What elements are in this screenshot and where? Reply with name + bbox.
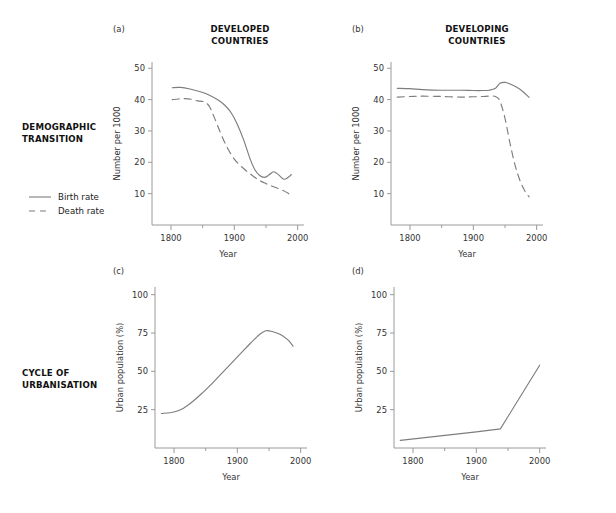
series-line-b-1 [397,96,529,197]
y-ticklabel-c-1: 50 [137,366,148,376]
x-axis-title-d: Year [460,472,479,482]
y-ticklabel-a-1: 20 [134,157,145,167]
panel-tag-a: (a) [113,24,125,34]
x-ticklabel-b-0: 1800 [399,233,420,243]
y-ticklabel-c-0: 25 [137,405,148,415]
plot-layer: 1020304050180019002000YearNumber per 100… [0,0,616,513]
legend-swatch-solid-icon [28,192,52,202]
legend-item-birth-rate: Birth rate [28,190,138,204]
row-label-demographic-transition: DEMOGRAPHIC TRANSITION [22,122,114,145]
x-ticklabel-d-0: 1800 [402,456,423,466]
y-ticklabel-b-4: 50 [373,63,384,73]
y-ticklabel-b-1: 20 [373,157,384,167]
y-ticklabel-a-2: 30 [134,126,145,136]
y-ticklabel-a-4: 50 [134,63,145,73]
y-ticklabel-d-2: 75 [376,328,387,338]
x-ticklabel-a-0: 1800 [160,233,181,243]
legend-label-death-rate: Death rate [58,206,104,216]
y-ticklabel-b-3: 40 [373,95,384,105]
column-title-developed: DEVELOPED COUNTRIES [175,24,305,47]
legend-swatch-dashed-icon [28,206,52,216]
y-ticklabel-b-0: 10 [373,189,384,199]
y-axis-title-c: Urban population (%) [115,323,125,413]
x-axis-title-c: Year [221,472,240,482]
legend-label-birth-rate: Birth rate [58,192,99,202]
panel-c: 255075100180019002000YearUrban populatio… [115,287,311,482]
x-ticklabel-c-0: 1800 [163,456,184,466]
figure-canvas: DEMOGRAPHIC TRANSITION CYCLE OF URBANISA… [0,0,616,513]
y-ticklabel-d-1: 50 [376,366,387,376]
y-axis-title-d: Urban population (%) [354,323,364,413]
y-ticklabel-d-3: 100 [371,290,387,300]
y-ticklabel-c-3: 100 [132,290,148,300]
y-ticklabel-b-2: 30 [373,126,384,136]
panel-a: 1020304050180019002000YearNumber per 100… [112,62,308,259]
panel-tag-d: (d) [352,266,364,276]
series-line-c-0 [161,331,293,414]
x-axis-title-a: Year [218,249,237,259]
panel-b: 1020304050180019002000YearNumber per 100… [351,62,547,259]
y-ticklabel-c-2: 75 [137,328,148,338]
legend: Birth rate Death rate [28,190,138,218]
series-line-d-0 [400,365,539,440]
y-ticklabel-d-0: 25 [376,405,387,415]
series-line-a-0 [172,87,291,179]
panel-tag-b: (b) [352,24,364,34]
panel-d: 255075100180019002000YearUrban populatio… [354,287,550,482]
x-ticklabel-a-2: 2000 [287,233,308,243]
series-line-b-0 [397,82,529,97]
panel-tag-c: (c) [113,266,124,276]
x-ticklabel-b-2: 2000 [526,233,547,243]
row-label-cycle-of-urbanisation: CYCLE OF URBANISATION [22,368,114,391]
y-ticklabel-a-3: 40 [134,95,145,105]
x-axis-title-b: Year [457,249,476,259]
legend-item-death-rate: Death rate [28,204,138,218]
x-ticklabel-b-1: 1900 [463,233,484,243]
x-ticklabel-a-1: 1900 [224,233,245,243]
x-ticklabel-d-2: 2000 [529,456,550,466]
x-ticklabel-d-1: 1900 [466,456,487,466]
column-title-developing: DEVELOPING COUNTRIES [412,24,542,47]
y-axis-title-b: Number per 1000 [351,106,361,180]
x-ticklabel-c-2: 2000 [290,456,311,466]
x-ticklabel-c-1: 1900 [227,456,248,466]
